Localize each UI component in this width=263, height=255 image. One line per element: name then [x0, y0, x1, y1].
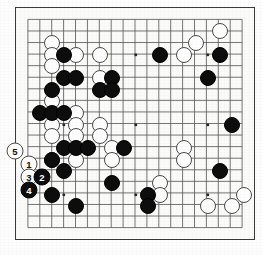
white-stone[interactable] — [104, 152, 120, 168]
black-stone[interactable] — [56, 163, 72, 179]
black-stone[interactable] — [116, 140, 132, 156]
black-stone[interactable] — [56, 47, 72, 63]
move-marker-label: 5 — [12, 146, 17, 156]
white-stone[interactable] — [176, 47, 192, 63]
move-marker-label: 3 — [26, 172, 31, 182]
move-marker-label: 1 — [26, 159, 31, 169]
move-marker-2[interactable]: 2 — [34, 169, 51, 186]
black-stone[interactable] — [68, 198, 84, 214]
go-board[interactable] — [15, 7, 255, 240]
move-marker-5[interactable]: 5 — [7, 143, 24, 160]
white-stone[interactable] — [224, 198, 240, 214]
white-stone[interactable] — [188, 35, 204, 51]
black-stone[interactable] — [68, 70, 84, 86]
black-stone[interactable] — [212, 47, 228, 63]
move-marker-label: 2 — [39, 172, 44, 182]
black-stone[interactable] — [80, 140, 96, 156]
black-stone[interactable] — [104, 175, 120, 191]
black-stone[interactable] — [200, 70, 216, 86]
black-stone[interactable] — [224, 117, 240, 133]
black-stone[interactable] — [44, 82, 60, 98]
white-stone[interactable] — [200, 198, 216, 214]
move-marker-label: 4 — [26, 185, 31, 195]
white-stone[interactable] — [236, 187, 252, 203]
black-stone[interactable] — [56, 105, 72, 121]
white-stone[interactable] — [212, 23, 228, 39]
black-stone[interactable] — [140, 198, 156, 214]
black-stone[interactable] — [212, 163, 228, 179]
black-stone[interactable] — [152, 47, 168, 63]
go-diagram-root: 51324 — [0, 0, 263, 255]
move-marker-4[interactable]: 4 — [21, 182, 38, 199]
black-stone[interactable] — [104, 82, 120, 98]
white-stone[interactable] — [92, 47, 108, 63]
white-stone[interactable] — [176, 152, 192, 168]
black-stone[interactable] — [44, 187, 60, 203]
